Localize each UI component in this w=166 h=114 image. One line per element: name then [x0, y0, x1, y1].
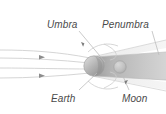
umbra-label: Umbra: [47, 19, 78, 30]
sunlight-ray-1: [0, 50, 90, 58]
earth-upper-arc: [88, 44, 118, 52]
penumbra-label: Penumbra: [102, 19, 149, 30]
diagram-canvas: Umbra Penumbra Earth Moon: [0, 0, 166, 114]
moon-label: Moon: [122, 93, 148, 104]
ray-arrow-icon-upper: [39, 55, 45, 59]
moon-body: [114, 61, 126, 73]
sunlight-ray-2: [0, 58, 90, 63]
ray-direction-arrows: [39, 55, 45, 78]
sunlight-ray-3: [0, 68, 90, 69]
earth-label: Earth: [51, 93, 76, 104]
moon-sphere: [114, 61, 126, 73]
earth-sphere: [84, 56, 104, 76]
lunar-eclipse-diagram: Umbra Penumbra Earth Moon: [0, 0, 166, 114]
sunlight-ray-4: [0, 73, 90, 78]
earth-leader-line: [79, 73, 97, 90]
sunlight-rays: [0, 50, 90, 78]
umbra-arrowhead-icon: [81, 42, 84, 47]
ray-arrow-icon-lower: [39, 74, 45, 78]
